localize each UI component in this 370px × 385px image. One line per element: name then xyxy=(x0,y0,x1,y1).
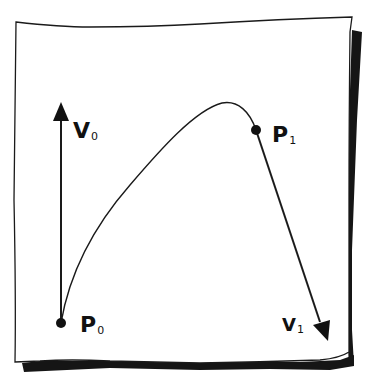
label-v0: V0 xyxy=(73,120,98,142)
p1-point-icon xyxy=(251,125,261,135)
p0-point-icon xyxy=(56,318,66,328)
label-p0-sub: 0 xyxy=(97,324,104,337)
label-v1: V1 xyxy=(282,316,304,334)
label-p1-sub: 1 xyxy=(289,134,296,147)
hermite-curve-diagram: V0 P0 P1 V1 xyxy=(0,0,370,385)
paper-sheet xyxy=(14,17,352,363)
label-v0-sub: 0 xyxy=(91,130,98,143)
label-v1-sub: 1 xyxy=(297,323,304,336)
label-p1-main: P xyxy=(272,122,288,147)
label-p1: P1 xyxy=(272,124,296,146)
label-v1-main: V xyxy=(282,314,296,335)
diagram-canvas xyxy=(0,0,370,385)
label-v0-main: V xyxy=(73,118,90,143)
label-p0: P0 xyxy=(80,314,104,336)
label-p0-main: P xyxy=(80,312,96,337)
